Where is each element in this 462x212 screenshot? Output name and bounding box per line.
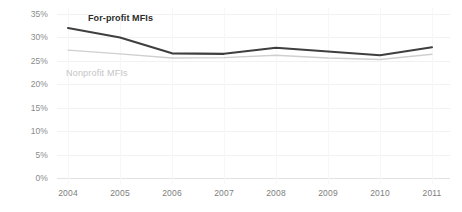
x-tick-label-2005: 2005 <box>110 189 130 198</box>
x-tick-label-2008: 2008 <box>266 189 286 198</box>
series-label-nonprofit-mfis: Nonprofit MFIs <box>66 69 128 78</box>
series-label-forprofit-mfis: For-profit MFIs <box>88 14 153 23</box>
x-axis-tick-labels: 20042005200620072008200920102011 <box>0 0 462 212</box>
x-tick-label-2004: 2004 <box>58 189 78 198</box>
x-tick-label-2009: 2009 <box>318 189 338 198</box>
x-tick-label-2006: 2006 <box>162 189 182 198</box>
x-tick-label-2007: 2007 <box>214 189 234 198</box>
chart-container: 35%30%25%20%15%10%5%0% 20042005200620072… <box>0 0 462 212</box>
x-tick-label-2011: 2011 <box>422 189 441 198</box>
x-tick-label-2010: 2010 <box>370 189 390 198</box>
